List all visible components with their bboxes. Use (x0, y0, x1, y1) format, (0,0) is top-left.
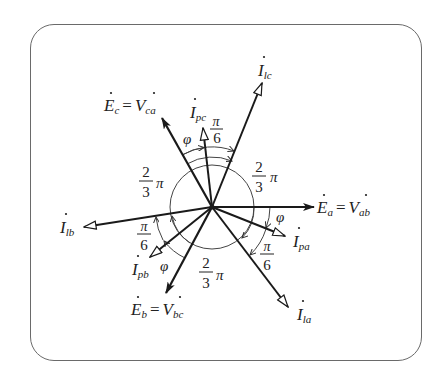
svg-text:Ec=Vca: Ec=Vca (103, 96, 156, 116)
svg-text:π: π (156, 175, 164, 191)
svg-text:3: 3 (142, 184, 150, 200)
angle-phi-c: φ (183, 131, 191, 147)
svg-text:Ipa: Ipa (292, 232, 310, 252)
label-Ea-Vab: Ea=Vab (316, 194, 370, 218)
label-Ipb: Ipb (131, 255, 149, 280)
arc-pi6-b (156, 217, 163, 240)
svg-text:Ipc: Ipc (189, 103, 206, 123)
origin-dot (210, 205, 215, 210)
svg-text:Ea=Vab: Ea=Vab (316, 198, 370, 218)
angle-phi-b: φ (160, 258, 168, 274)
phasor-diagram: Ec=Vca Ipc Ilc Ea=Vab Ipa Ila Ilb Ipb (0, 0, 440, 375)
label-Ilb: Ilb (59, 213, 75, 238)
svg-text:π: π (212, 114, 220, 129)
phasor-Ilb (84, 207, 212, 227)
svg-text:3: 3 (202, 275, 210, 291)
svg-text:Ipb: Ipb (131, 260, 149, 280)
svg-text:Eb=Vbc: Eb=Vbc (130, 300, 183, 320)
svg-text:6: 6 (140, 237, 148, 253)
svg-text:3: 3 (255, 179, 263, 195)
svg-text:π: π (216, 267, 224, 283)
svg-text:2: 2 (255, 159, 263, 175)
label-Ec-Vca: Ec=Vca (103, 92, 156, 116)
angle-pi6-c: π 6 (210, 114, 223, 146)
svg-text:2: 2 (142, 164, 150, 180)
arc-two-thirds-pi-top (187, 157, 232, 164)
arc-phi-c (182, 148, 204, 156)
svg-text:Ilb: Ilb (59, 218, 75, 238)
svg-text:π: π (270, 169, 278, 185)
label-Ilc: Ilc (257, 56, 272, 81)
svg-text:π: π (140, 219, 148, 234)
svg-text:6: 6 (263, 257, 271, 273)
angle-pi6-b: π 6 (137, 219, 151, 253)
label-Ipa: Ipa (292, 227, 310, 252)
svg-text:Ilc: Ilc (257, 61, 272, 81)
angle-pi6-a: π 6 (260, 239, 274, 273)
angle-two-thirds-pi-left: 2 3 π (139, 164, 164, 200)
label-Ila: Ila (296, 300, 312, 325)
label-Ipc: Ipc (189, 98, 206, 123)
label-Eb-Vbc: Eb=Vbc (130, 296, 183, 320)
angle-phi-a: φ (276, 209, 284, 225)
svg-text:6: 6 (213, 130, 221, 146)
svg-text:2: 2 (202, 255, 210, 271)
svg-text:Ila: Ila (296, 305, 312, 325)
angle-two-thirds-pi-bottom: 2 3 π (199, 255, 224, 291)
arc-two-thirds-pi-left (172, 216, 190, 243)
svg-text:π: π (263, 239, 271, 254)
arc-phi-a (266, 207, 270, 228)
angle-two-thirds-pi-right: 2 3 π (252, 159, 278, 195)
